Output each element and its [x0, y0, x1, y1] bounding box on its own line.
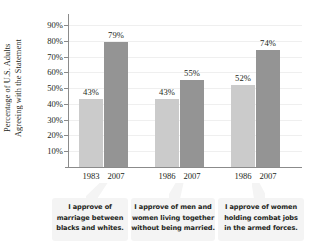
bar-value-label: 55% [184, 68, 200, 78]
y-axis-tick-label: 70% [47, 52, 63, 62]
statement-caption-line: marriage between [52, 213, 128, 224]
bar [155, 99, 179, 167]
y-axis-tick-label: 50% [47, 83, 63, 93]
plot-area: 90%80%70%60%50%40%30%20%10% 43%79%43%55%… [68, 14, 302, 168]
statement-caption-line: I approve of men and [131, 202, 215, 213]
y-axis-tick-label: 80% [47, 36, 63, 46]
bar [256, 50, 280, 167]
bar-value-label: 79% [108, 30, 124, 40]
bar [180, 80, 204, 167]
callout-tail [86, 183, 108, 199]
callout-tail [169, 183, 184, 199]
statement-caption-line: holding combat jobs [218, 213, 304, 224]
bar-value-label: 52% [235, 73, 251, 83]
x-axis-tick-label: 2007 [183, 171, 200, 181]
y-axis-line [68, 14, 69, 168]
statement-caption-line: without being married. [131, 223, 215, 234]
y-axis-tick [64, 135, 68, 136]
y-axis-tick [64, 151, 68, 152]
bar-value-label: 43% [83, 87, 99, 97]
statement-caption: I approve of men andwomen living togethe… [131, 198, 215, 241]
bar-chart-figure: Percentage of U.S. Adults Agreeing with … [0, 0, 313, 241]
statement-caption: I approve of womenholding combat jobsin … [218, 198, 304, 241]
y-axis-tick-label: 30% [47, 115, 63, 125]
x-axis-tick-label: 1986 [234, 171, 251, 181]
y-axis-tick [64, 57, 68, 58]
x-axis-line [65, 167, 302, 168]
y-axis-tick [64, 72, 68, 73]
x-axis-tick-label: 1986 [158, 171, 175, 181]
y-axis-tick-label: 10% [47, 146, 63, 156]
y-axis-tick [64, 88, 68, 89]
bar [104, 42, 128, 167]
bar [79, 99, 103, 167]
statement-caption: I approve ofmarriage betweenblacks and w… [52, 198, 128, 241]
statement-caption-line: blacks and whites. [52, 223, 128, 234]
y-axis-title: Percentage of U.S. Adults Agreeing with … [0, 8, 26, 168]
statement-caption-line: in the armed forces. [218, 223, 304, 234]
y-axis-tick-label: 20% [47, 130, 63, 140]
y-axis-tick-label: 90% [47, 20, 63, 30]
bar-value-label: 74% [260, 38, 276, 48]
y-axis-tick [64, 120, 68, 121]
y-axis-tick-label: 60% [47, 67, 63, 77]
bar-value-label: 43% [159, 87, 175, 97]
y-axis-tick [64, 104, 68, 105]
x-axis-tick-label: 1983 [82, 171, 99, 181]
callout-tail [252, 183, 266, 199]
x-axis-tick-label: 2007 [107, 171, 124, 181]
statement-caption-line: I approve of [52, 202, 128, 213]
gridline [69, 25, 302, 26]
y-axis-tick [64, 41, 68, 42]
x-axis-tick-label: 2007 [259, 171, 276, 181]
statement-caption-line: I approve of women [218, 202, 304, 213]
bar [231, 85, 255, 167]
statement-caption-line: women living together [131, 213, 215, 224]
y-axis-title-line-2: Agreeing with the Statement [12, 8, 25, 168]
y-axis-tick-label: 40% [47, 99, 63, 109]
y-axis-tick [64, 25, 68, 26]
